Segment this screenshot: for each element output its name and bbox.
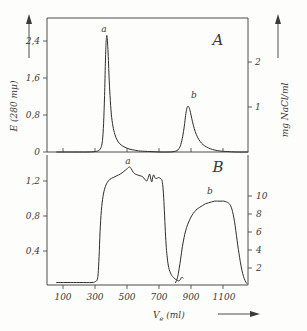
xtick-900: 900 <box>182 292 199 302</box>
y-right-axis-title: mg NaCl/ml <box>280 83 290 138</box>
svg-text:Ve (ml): Ve (ml) <box>153 310 185 323</box>
x-axis-arrow <box>218 311 260 317</box>
xtick-500: 500 <box>118 292 135 302</box>
panel-a-curve <box>57 35 248 152</box>
panel-b-right-ytick-10: 10 <box>256 191 268 201</box>
panel-a-ytick-0: 0 <box>34 147 40 157</box>
x-axis-ticks <box>63 285 223 289</box>
panel-b-right-ytick-2: 2 <box>255 263 262 273</box>
panel-b-left-ticks <box>43 181 47 251</box>
xtick-300: 300 <box>86 292 103 302</box>
panel-b-ytick-12: 1,2 <box>26 176 41 186</box>
panel-a-ytick-08: 0,8 <box>26 110 41 120</box>
xtick-700: 700 <box>150 292 167 302</box>
panel-b-right-ytick-4: 4 <box>255 245 262 255</box>
y-left-axis-title: E (280 mμ) <box>9 80 19 132</box>
panel-b-curve-first <box>57 167 183 283</box>
panel-a-ytick-16: 1,6 <box>26 73 41 83</box>
x-axis-title: Ve (ml) <box>153 310 185 323</box>
chart-svg: 0 0,8 1,6 2,4 1 2 E (280 mμ) mg NaCl/ml … <box>0 0 307 331</box>
panel-b-ytick-08: 0,8 <box>26 211 41 221</box>
panel-b-label: B <box>211 158 223 176</box>
chromatography-figure: 0 0,8 1,6 2,4 1 2 E (280 mμ) mg NaCl/ml … <box>0 0 307 331</box>
panel-a-label: A <box>211 31 224 49</box>
panel-a-peak-b-label: b <box>191 90 197 100</box>
panel-a-right-ytick-2: 2 <box>254 57 261 67</box>
x-arrowhead <box>250 311 260 317</box>
x-title-unit: (ml) <box>166 310 185 320</box>
y-right-arrowhead <box>275 14 281 24</box>
xtick-1100: 1100 <box>213 292 236 302</box>
xtick-100: 100 <box>54 292 71 302</box>
panel-b-peak-a-label: a <box>125 156 130 166</box>
y-right-axis-arrow <box>275 14 281 58</box>
panel-a-peak-a-label: a <box>101 24 106 34</box>
panel-a-ytick-24: 2,4 <box>25 36 41 46</box>
y-left-arrowhead <box>26 14 32 24</box>
panel-a-left-ticks <box>43 41 47 152</box>
panel-b-peak-b-label: b <box>207 186 213 196</box>
panel-b-ytick-04: 0,4 <box>26 246 41 256</box>
panel-b-right-ticks <box>248 196 252 268</box>
panel-b-curve-second <box>176 201 247 283</box>
panel-a-right-ticks <box>248 62 252 107</box>
panel-a-right-ytick-1: 1 <box>255 102 261 112</box>
panel-b-right-ytick-6: 6 <box>256 227 262 237</box>
panel-b-right-ytick-8: 8 <box>256 209 262 219</box>
